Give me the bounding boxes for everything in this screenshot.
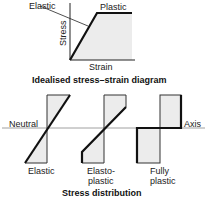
elastic-annotation: Elastic bbox=[29, 1, 56, 11]
area-under-curve bbox=[70, 13, 132, 60]
bottom-caption: Stress distribution bbox=[62, 188, 142, 198]
y-axis-label: Stress bbox=[58, 20, 68, 46]
axis-label: Axis bbox=[184, 119, 201, 129]
fully-plastic-panel-label-line1: Fully bbox=[150, 166, 169, 176]
elasto-plastic-stress-block bbox=[82, 95, 126, 163]
fully-plastic-panel-label-line2: plastic bbox=[150, 176, 176, 186]
x-axis-label: Strain bbox=[89, 62, 113, 72]
elasto-plastic-panel-label-line2: plastic bbox=[88, 176, 114, 186]
neutral-label: Neutral bbox=[9, 119, 38, 129]
diagram-root: Elastic Plastic Stress Strain Idealised … bbox=[0, 0, 210, 208]
plastic-annotation: Plastic bbox=[100, 2, 127, 12]
elastic-stress-block bbox=[25, 95, 70, 163]
elastic-panel-label: Elastic bbox=[28, 166, 55, 176]
top-caption: Idealised stress–strain diagram bbox=[32, 75, 167, 85]
elasto-plastic-panel-label-line1: Elasto- bbox=[87, 166, 115, 176]
fully-plastic-stress-block bbox=[137, 95, 181, 163]
